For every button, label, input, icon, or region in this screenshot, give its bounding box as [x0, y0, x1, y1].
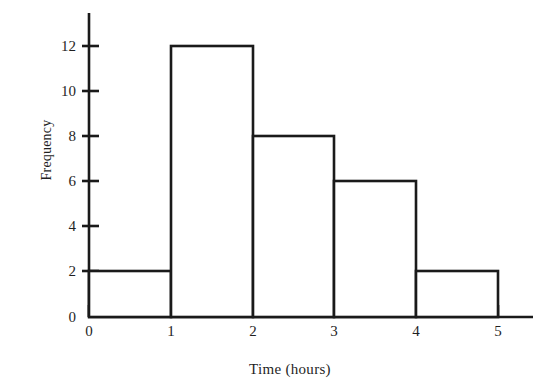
x-tick-label-1: 1	[159, 324, 183, 339]
y-tick-label-4: 4	[50, 219, 76, 234]
y-axis-ticks	[82, 46, 99, 271]
x-tick-label-3: 3	[322, 324, 346, 339]
histogram-bars	[89, 46, 498, 317]
x-tick-label-4: 4	[404, 324, 428, 339]
x-tick-label-2: 2	[241, 324, 265, 339]
y-tick-label-12: 12	[50, 39, 76, 54]
histogram-figure: 12 10 8 6 4 2 0 0 1 2 3 4 5 Frequency Ti…	[0, 0, 560, 391]
bar-0-1	[89, 271, 171, 317]
y-tick-label-0: 0	[50, 310, 76, 325]
x-tick-label-5: 5	[486, 324, 510, 339]
bar-3-4	[334, 181, 416, 317]
y-tick-label-2: 2	[50, 264, 76, 279]
bar-4-5	[416, 271, 498, 317]
x-tick-label-0: 0	[77, 324, 101, 339]
x-axis-title: Time (hours)	[220, 361, 360, 378]
bar-1-2	[171, 46, 253, 317]
bar-2-3	[253, 136, 334, 317]
y-axis-title: Frequency	[39, 95, 55, 205]
